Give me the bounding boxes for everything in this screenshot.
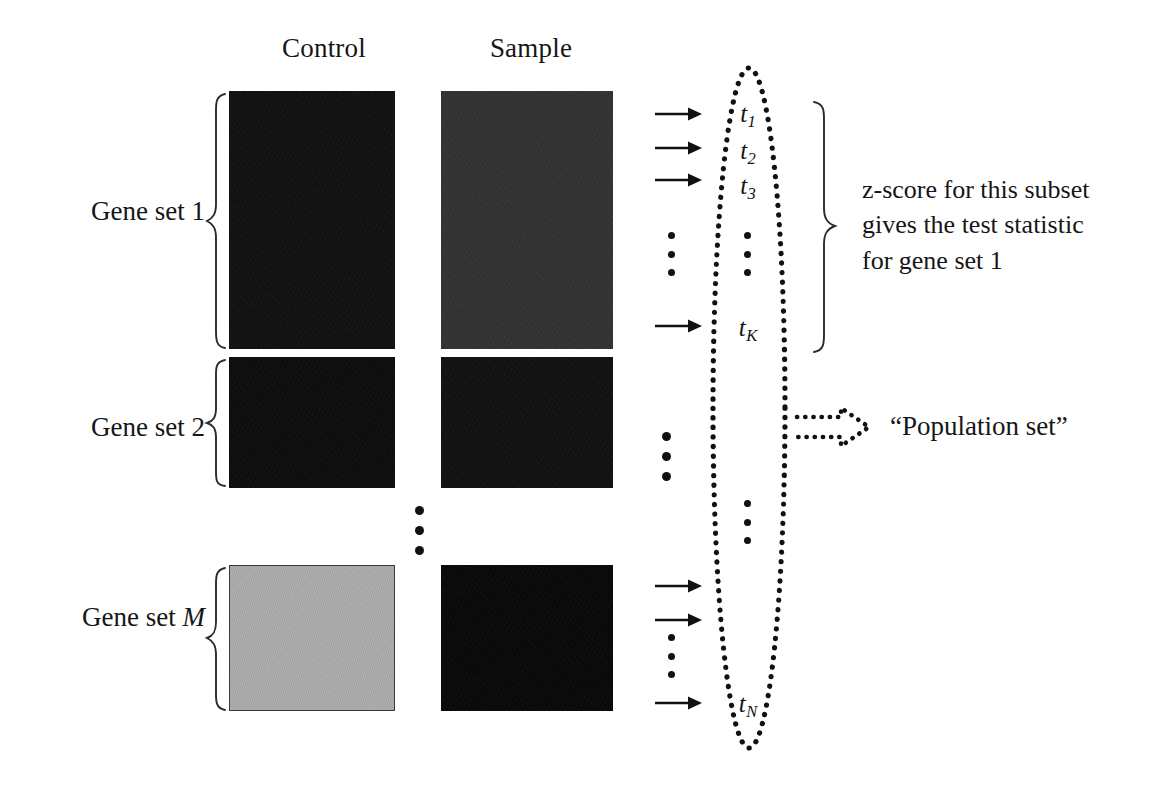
- rows-ellipsis-icon: [414, 506, 424, 555]
- heatmap-block-gene-set-m-sample: [441, 565, 613, 711]
- arrow-to-t1-icon: [655, 106, 703, 122]
- brace-gene-set-2: [205, 358, 231, 488]
- arrows-ellipsis-middle-icon: [661, 432, 671, 481]
- arrows-ellipsis-upper-icon: [667, 232, 676, 276]
- arrows-ellipsis-lower-icon: [667, 634, 676, 678]
- statistic-label-tk: tK: [714, 314, 782, 346]
- figure-canvas: Control Sample Gene set 1 Gene set 2 Gen…: [0, 0, 1164, 792]
- arrow-to-t2-icon: [655, 140, 703, 156]
- population-set-label: “Population set”: [890, 411, 1068, 442]
- statistic-label-tn: tN: [714, 690, 782, 722]
- brace-gene-set-1-subset: [808, 100, 838, 354]
- heatmap-block-gene-set-1-control: [229, 91, 395, 349]
- statistic-label-t1: t1: [714, 100, 782, 132]
- column-header-control: Control: [228, 33, 420, 64]
- arrow-to-tm1-icon: [655, 578, 703, 594]
- row-label-gene-set-m-prefix: Gene set: [82, 602, 182, 632]
- row-label-gene-set-1: Gene set 1: [20, 196, 205, 227]
- statistics-ellipsis-lower-icon: [743, 500, 752, 544]
- brace-gene-set-1: [205, 92, 231, 350]
- row-label-gene-set-2: Gene set 2: [20, 412, 205, 443]
- zscore-annotation: z-score for this subset gives the test s…: [862, 172, 1142, 278]
- arrow-to-tm2-icon: [655, 612, 703, 628]
- heatmap-block-gene-set-2-sample: [441, 357, 613, 488]
- population-set-arrow-icon: [795, 405, 875, 449]
- statistic-label-t2: t2: [714, 137, 782, 169]
- heatmap-block-gene-set-m-control: [229, 565, 395, 711]
- row-label-gene-set-m: Gene set M: [20, 602, 205, 633]
- statistic-label-t3: t3: [714, 172, 782, 204]
- arrow-to-tk-icon: [655, 318, 703, 334]
- heatmap-block-gene-set-2-control: [229, 357, 395, 488]
- statistics-ellipsis-upper-icon: [743, 232, 752, 276]
- arrow-to-t3-icon: [655, 172, 703, 188]
- column-header-sample: Sample: [442, 33, 620, 64]
- brace-gene-set-m: [205, 566, 231, 712]
- arrow-to-tn-icon: [655, 695, 703, 711]
- heatmap-block-gene-set-1-sample: [441, 91, 613, 349]
- row-label-gene-set-m-index: M: [183, 602, 206, 632]
